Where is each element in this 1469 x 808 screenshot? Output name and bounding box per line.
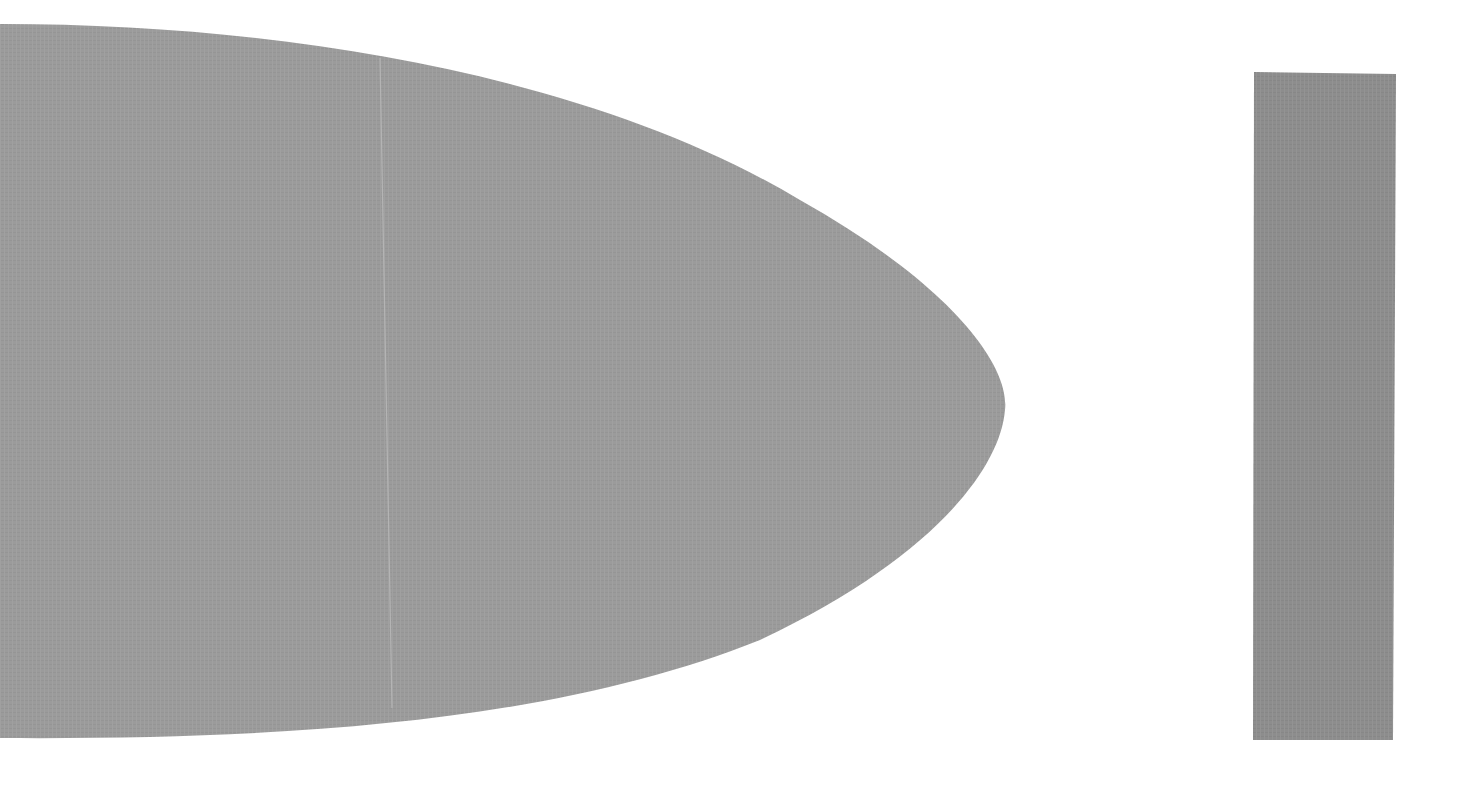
scene	[0, 0, 1469, 808]
half-ellipse-shape	[0, 24, 1005, 738]
rectangle-shape	[1253, 72, 1396, 740]
